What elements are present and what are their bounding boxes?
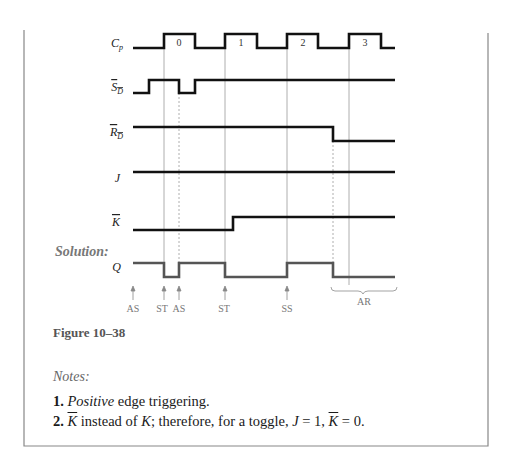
notes-heading: Notes: [53, 369, 90, 385]
waveform-cp [133, 34, 395, 48]
solution-label: Solution: [55, 244, 109, 260]
label-cp: Cp [111, 36, 123, 52]
k-symbol: K [141, 413, 151, 429]
pulse-number: 3 [363, 37, 368, 48]
figure-border [24, 30, 488, 446]
label-sd: SD [111, 80, 123, 96]
note-text: edge triggering. [114, 393, 209, 409]
note-text: ; therefore, for a toggle, [151, 413, 292, 429]
note-number: 1. [53, 393, 64, 409]
label-rd: RD [109, 125, 123, 141]
pulse-number: 1 [239, 37, 244, 48]
pulse-number: 0 [177, 37, 182, 48]
brace-label: AR [357, 296, 371, 307]
note-text: instead of [77, 413, 141, 429]
pulse-number: 2 [301, 37, 306, 48]
figure-caption: Figure 10–38 [53, 325, 125, 341]
clock-edge-guides [164, 48, 349, 285]
async-guides [179, 93, 333, 263]
waveform-q [133, 263, 395, 277]
event-arrows [131, 286, 289, 300]
note-text: = 1, [299, 413, 329, 429]
ar-brace [331, 287, 397, 294]
label-j: J [115, 171, 121, 185]
k-bar-symbol: K [68, 413, 78, 429]
note-emphasis: Positive [68, 393, 115, 409]
event-label: AS [127, 303, 140, 314]
note-item-1: 1. Positive edge triggering. [53, 393, 210, 410]
label-k: K [111, 215, 121, 229]
note-text: = 0. [338, 413, 364, 429]
note-number: 2. [53, 413, 64, 429]
waveform-sd [133, 80, 395, 93]
note-item-2: 2. K instead of K; therefore, for a togg… [53, 413, 365, 430]
waveform-rd [133, 127, 395, 141]
event-label: SS [281, 303, 292, 314]
event-label: AS [173, 303, 186, 314]
k-bar-symbol: K [329, 413, 339, 429]
label-q: Q [112, 260, 121, 274]
waveform-k [133, 217, 395, 230]
event-label: ST [218, 303, 230, 314]
event-label: ST [156, 303, 168, 314]
